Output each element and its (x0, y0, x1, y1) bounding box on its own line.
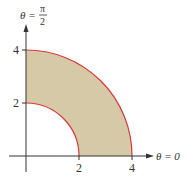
polar-region-figure: 4 2 2 4 θ = π 2 θ = 0 (0, 0, 187, 176)
x-tick-label-2: 2 (76, 161, 82, 175)
y-tick-label-2: 2 (13, 96, 19, 110)
horizontal-axis-arrow-icon (146, 154, 154, 159)
x-tick-label-4: 4 (129, 161, 135, 175)
vertical-axis-label-denominator: 2 (40, 16, 45, 27)
vertical-axis-label-numerator: π (40, 3, 45, 14)
vertical-axis-arrow-icon (24, 24, 29, 32)
y-tick-label-4: 4 (13, 43, 19, 57)
horizontal-axis-label: θ = 0 (156, 150, 180, 162)
shaded-region (26, 50, 132, 156)
vertical-axis-label: θ = (20, 9, 36, 21)
